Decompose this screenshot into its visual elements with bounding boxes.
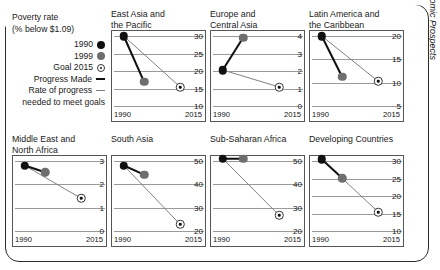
progress-made-line bbox=[124, 36, 144, 82]
trend-lines bbox=[114, 36, 188, 104]
x-axis-tick-label: 1990 bbox=[213, 235, 230, 244]
marker-1999 bbox=[41, 168, 50, 177]
x-axis-tick-label: 2015 bbox=[86, 235, 103, 244]
y-axis-tick-label: 2 bbox=[298, 67, 302, 76]
x-axis-tick-label: 1990 bbox=[312, 110, 329, 119]
panel-title: Europe andCentral Asia bbox=[210, 9, 305, 30]
marker-1999 bbox=[239, 154, 248, 163]
panel-slot-5: Sub-Saharan Africa 2030405019902015 bbox=[210, 134, 309, 259]
panel-slot-0: East Asia andthe Pacific1015202530199020… bbox=[111, 9, 210, 134]
y-axis-tick-label: 40 bbox=[194, 180, 203, 189]
marker-1990 bbox=[218, 154, 227, 163]
y-axis-tick-label: 30 bbox=[392, 157, 401, 166]
y-axis-tick-label: 25 bbox=[392, 174, 401, 183]
y-axis-tick-label: 10 bbox=[392, 78, 401, 87]
legend-item-progress-made: Progress Made bbox=[12, 74, 105, 86]
x-axis-labels: 19902015 bbox=[15, 235, 103, 244]
marker-goal-2015 bbox=[374, 208, 383, 217]
plot-area: 20304050 bbox=[114, 161, 188, 229]
panel-plot: 101520253019902015 bbox=[309, 155, 404, 247]
thin-gray-dash-icon bbox=[96, 90, 105, 91]
x-axis-tick-label: 2015 bbox=[185, 110, 202, 119]
marker-1999 bbox=[140, 78, 149, 87]
plot-area: 5101520 bbox=[312, 36, 386, 104]
y-axis-tick-label: 40 bbox=[293, 180, 302, 189]
gridline bbox=[114, 106, 204, 107]
y-axis-tick-label: 25 bbox=[194, 49, 203, 58]
legend-title-line1: Poverty rate bbox=[12, 12, 107, 24]
y-axis-tick-label: 50 bbox=[194, 157, 203, 166]
panel-title-line2 bbox=[309, 145, 404, 156]
legend-footnote: needed to meet goals bbox=[12, 97, 107, 109]
panel-slot-2: Latin America andthe Caribbean5101520199… bbox=[309, 9, 408, 134]
panel-plot: 510152019902015 bbox=[309, 30, 404, 122]
x-axis-tick-label: 1990 bbox=[213, 110, 230, 119]
gridline bbox=[312, 106, 402, 107]
panel-title: Middle East andNorth Africa bbox=[12, 134, 107, 155]
required-rate-line bbox=[25, 166, 81, 199]
marker-1990 bbox=[20, 161, 29, 170]
marker-1990 bbox=[317, 32, 326, 41]
x-axis-tick-label: 2015 bbox=[284, 235, 301, 244]
panel-title-line1: Sub-Saharan Africa bbox=[210, 134, 305, 145]
x-axis-tick-label: 2015 bbox=[383, 235, 400, 244]
source-note: Source: Global Economic Prospects bbox=[428, 0, 438, 60]
legend-label-rate-of-progress: Rate of progress bbox=[28, 85, 92, 97]
required-rate-line bbox=[124, 166, 180, 225]
marker-1999 bbox=[239, 33, 248, 42]
x-axis-labels: 19902015 bbox=[312, 235, 400, 244]
trend-lines bbox=[114, 161, 188, 229]
panel-slot-1: Europe andCentral Asia0123419902015 bbox=[210, 9, 309, 134]
trend-lines bbox=[312, 161, 386, 229]
panel-title: South Asia bbox=[111, 134, 206, 155]
gridline bbox=[213, 231, 303, 232]
panel-plot: 101520253019902015 bbox=[111, 30, 206, 122]
y-axis-tick-label: 1 bbox=[100, 203, 104, 212]
panel-title-line2: the Pacific bbox=[111, 20, 206, 31]
y-axis-tick-label: 1 bbox=[298, 84, 302, 93]
marker-1990 bbox=[119, 32, 128, 41]
trend-lines bbox=[312, 36, 386, 104]
marker-goal-2015 bbox=[374, 77, 383, 86]
gridline bbox=[213, 106, 303, 107]
legend-item-1999: 1999 bbox=[12, 51, 105, 63]
black-dot-icon bbox=[97, 41, 105, 49]
progress-made-line bbox=[223, 38, 243, 70]
marker-1999 bbox=[338, 73, 347, 82]
plot-area: 20304050 bbox=[213, 161, 287, 229]
panel-title-line1: South Asia bbox=[111, 134, 206, 145]
panel-plot: 2030405019902015 bbox=[210, 155, 305, 247]
panel-title-line2: North Africa bbox=[12, 145, 107, 156]
y-axis-tick-label: 3 bbox=[100, 157, 104, 166]
panel-title-line1: Europe and bbox=[210, 9, 305, 20]
marker-goal-2015 bbox=[176, 220, 185, 229]
panel-grid: Poverty rate (% below $1.09) 1990 1999 G… bbox=[12, 9, 408, 259]
x-axis-labels: 19902015 bbox=[114, 235, 202, 244]
x-axis-labels: 19902015 bbox=[213, 235, 301, 244]
marker-1990 bbox=[119, 161, 128, 170]
required-rate-line bbox=[322, 36, 378, 81]
gridline bbox=[15, 231, 105, 232]
legend-items: 1990 1999 Goal 2015 Progress Made Rate o… bbox=[12, 39, 107, 97]
y-axis-tick-label: 20 bbox=[392, 32, 401, 41]
legend-label-1999: 1999 bbox=[74, 51, 93, 63]
y-axis-tick-label: 4 bbox=[298, 32, 302, 41]
y-axis-tick-label: 2 bbox=[100, 180, 104, 189]
progress-made-line bbox=[322, 36, 342, 77]
x-axis-labels: 19902015 bbox=[213, 110, 301, 119]
marker-1999 bbox=[338, 174, 347, 183]
y-axis-tick-label: 15 bbox=[194, 84, 203, 93]
plot-area: 01234 bbox=[213, 36, 287, 104]
marker-goal-2015 bbox=[176, 83, 185, 92]
panel-plot: 2030405019902015 bbox=[111, 155, 206, 247]
y-axis-tick-label: 30 bbox=[293, 203, 302, 212]
y-axis-tick-label: 15 bbox=[392, 209, 401, 218]
plot-area: 1015202530 bbox=[312, 161, 386, 229]
required-rate-line bbox=[124, 36, 180, 87]
panel-slot-6: Developing Countries 101520253019902015 bbox=[309, 134, 408, 259]
y-axis-tick-label: 30 bbox=[194, 32, 203, 41]
legend-label-progress-made: Progress Made bbox=[34, 74, 92, 86]
panel-title-line2 bbox=[111, 145, 206, 156]
panel-title-line2: Central Asia bbox=[210, 20, 305, 31]
y-axis-tick-label: 30 bbox=[194, 203, 203, 212]
